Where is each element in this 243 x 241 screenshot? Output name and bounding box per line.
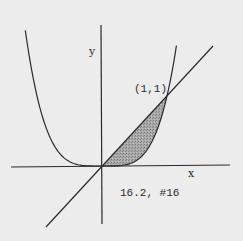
x-axis-label: x [188,167,195,180]
line-y-equals-x [46,46,213,227]
figure-caption: 16.2, #16 [120,187,179,199]
intersection-point-label: (1,1) [134,83,167,95]
y-axis-label: y [88,45,96,58]
y-axis [101,25,102,224]
diagram: y x (1,1) 16.2, #16 [0,0,243,241]
